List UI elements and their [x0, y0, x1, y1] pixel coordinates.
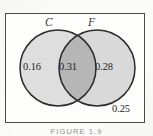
- region-value-outside: 0.25: [112, 103, 130, 114]
- region-value-c-only: 0.16: [23, 61, 41, 72]
- region-value-intersection: 0.31: [59, 61, 77, 72]
- figure-caption: FIGURE 1.9: [0, 127, 153, 136]
- region-value-f-only: 0.28: [95, 61, 113, 72]
- venn-diagram-figure: C F 0.16 0.31 0.28 0.25 FIGURE 1.9: [0, 0, 153, 136]
- set-label-c: C: [45, 16, 53, 28]
- set-label-f: F: [88, 16, 95, 28]
